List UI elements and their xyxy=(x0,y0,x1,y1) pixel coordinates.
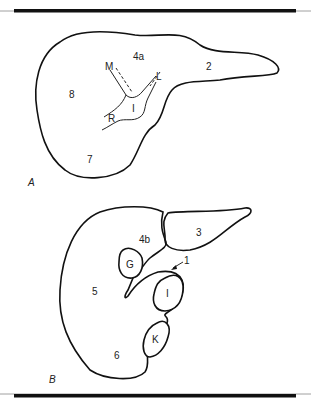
label-vena-cava-i: I xyxy=(166,288,169,299)
panel-b: 4b 3 1 G I K 5 6 B xyxy=(49,207,251,385)
label-segment-2: 2 xyxy=(206,61,212,72)
label-segment-3: 3 xyxy=(196,227,202,238)
label-kidney-k: K xyxy=(152,334,159,345)
label-segment-4b: 4b xyxy=(139,234,151,245)
label-segment-6: 6 xyxy=(114,350,120,361)
panel-a: 4a 2 8 7 M L R I A xyxy=(27,32,279,188)
label-vein-l: L xyxy=(156,71,162,82)
label-gallbladder-g: G xyxy=(126,259,134,270)
top-rule xyxy=(14,9,296,13)
bottom-rule xyxy=(14,394,296,398)
segment-3-outline xyxy=(164,208,251,251)
label-segment-7: 7 xyxy=(87,154,93,165)
panel-label-a: A xyxy=(27,177,35,188)
vessel-m-dashed xyxy=(116,68,132,92)
arrow-head-icon xyxy=(171,265,177,270)
liver-segments-figure: 4a 2 8 7 M L R I A 4b 3 1 G I K 5 6 B xyxy=(0,0,311,402)
vessel-outer-upper xyxy=(110,70,156,98)
label-vein-r: R xyxy=(108,113,115,124)
label-segment-8: 8 xyxy=(69,89,75,100)
label-segment-4a: 4a xyxy=(133,51,145,62)
label-vena-cava-i: I xyxy=(132,103,135,114)
label-segment-1: 1 xyxy=(184,255,190,266)
panel-label-b: B xyxy=(49,374,56,385)
label-vein-m: M xyxy=(105,61,113,72)
liver-outline-a xyxy=(36,32,279,178)
label-segment-5: 5 xyxy=(92,286,98,297)
